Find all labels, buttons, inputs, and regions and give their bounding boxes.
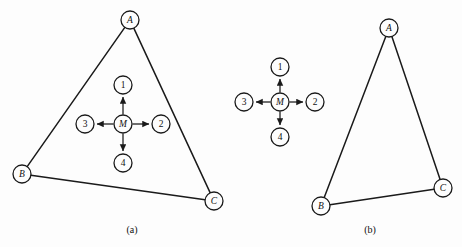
graph-edge-b-c xyxy=(31,175,205,199)
node-label-b: B xyxy=(19,169,25,179)
node-a[interactable]: A xyxy=(380,19,398,37)
node-label-b: B xyxy=(318,201,324,211)
node-4[interactable]: 4 xyxy=(271,128,289,146)
node-2[interactable]: 2 xyxy=(152,115,170,133)
node-1[interactable]: 1 xyxy=(271,58,289,76)
node-c[interactable]: C xyxy=(205,192,223,210)
node-3[interactable]: 3 xyxy=(235,93,253,111)
node-label-3: 3 xyxy=(83,119,88,129)
graph-edge-a-c xyxy=(392,37,440,180)
node-label-3: 3 xyxy=(242,97,247,107)
node-1[interactable]: 1 xyxy=(114,76,132,94)
node-b[interactable]: B xyxy=(13,165,31,183)
graph-edge-a-b xyxy=(324,36,386,197)
node-label-a: A xyxy=(126,15,133,25)
graph-edge-a-c xyxy=(134,28,210,193)
node-label-2: 2 xyxy=(313,97,318,107)
captions-layer: (a)(b) xyxy=(126,224,375,236)
node-c[interactable]: C xyxy=(434,179,452,197)
node-a[interactable]: A xyxy=(121,11,139,29)
node-3[interactable]: 3 xyxy=(76,115,94,133)
node-label-1: 1 xyxy=(121,80,126,90)
node-label-m: M xyxy=(118,119,128,129)
node-2[interactable]: 2 xyxy=(306,93,324,111)
figure-root: ABCM1234M1234ABC (a)(b) xyxy=(0,0,462,247)
node-label-c: C xyxy=(440,183,447,193)
panel-caption-panel-a: (a) xyxy=(126,224,137,236)
node-b[interactable]: B xyxy=(312,197,330,215)
node-label-a: A xyxy=(385,23,392,33)
node-label-2: 2 xyxy=(159,119,164,129)
node-label-4: 4 xyxy=(278,132,283,142)
graph-edge-b-c xyxy=(330,189,434,204)
node-label-1: 1 xyxy=(278,62,283,72)
graph-edge-a-b xyxy=(27,27,125,166)
nodes-layer: ABCM1234M1234ABC xyxy=(13,11,452,215)
node-m[interactable]: M xyxy=(271,93,289,111)
panel-caption-panel-b: (b) xyxy=(364,224,376,236)
figure-canvas: ABCM1234M1234ABC (a)(b) xyxy=(0,0,462,247)
node-label-4: 4 xyxy=(121,158,126,168)
node-4[interactable]: 4 xyxy=(114,154,132,172)
node-label-c: C xyxy=(211,196,218,206)
node-m[interactable]: M xyxy=(114,115,132,133)
node-label-m: M xyxy=(275,97,285,107)
